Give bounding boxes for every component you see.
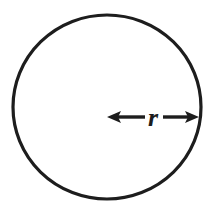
diagram-background [0, 0, 217, 209]
diagram-canvas: r [0, 0, 217, 209]
circle-radius-diagram: r [0, 0, 217, 209]
radius-label: r [148, 103, 159, 132]
